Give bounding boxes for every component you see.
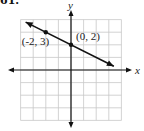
data-point bbox=[44, 30, 48, 34]
x-axis-arrow-left-icon bbox=[8, 68, 14, 73]
point-label: (0, 2) bbox=[76, 30, 100, 43]
y-axis-arrow-down-icon bbox=[69, 122, 74, 128]
coordinate-plane: xy (-2, 3)(0, 2) bbox=[0, 0, 144, 131]
problem-number: 61. bbox=[0, 0, 19, 7]
data-point bbox=[69, 43, 73, 47]
y-axis-label: y bbox=[67, 0, 73, 11]
x-axis-arrow-right-icon bbox=[126, 68, 132, 73]
x-axis-label: x bbox=[134, 64, 140, 76]
graph-figure: 61. xy (-2, 3)(0, 2) bbox=[0, 0, 144, 131]
point-label: (-2, 3) bbox=[22, 35, 50, 48]
